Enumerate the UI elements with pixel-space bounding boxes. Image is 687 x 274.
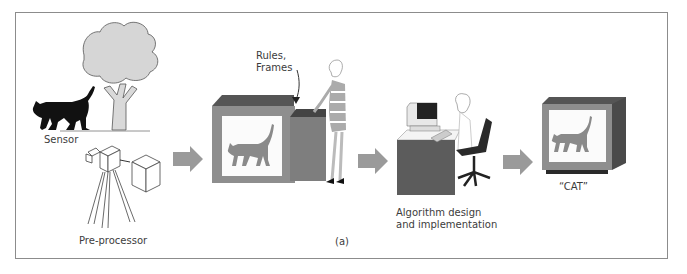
programmer-icon xyxy=(456,94,472,150)
rules-label: Rules, xyxy=(256,50,286,62)
output-label: “CAT” xyxy=(559,181,588,193)
diagram-canvas xyxy=(0,0,687,274)
algorithm-label-line2: and implementation xyxy=(396,219,497,231)
figure-caption: (a) xyxy=(335,236,349,248)
knowledge-box-icon xyxy=(290,109,326,181)
output-monitor-icon xyxy=(542,97,626,174)
sensor-label: Sensor xyxy=(44,134,78,146)
desk-icon xyxy=(397,130,460,195)
arrow-1 xyxy=(173,146,203,172)
algorithm-label-line1: Algorithm design xyxy=(396,207,481,219)
cat-icon xyxy=(33,86,95,130)
camera-icon xyxy=(86,146,135,228)
arrow-2 xyxy=(358,148,388,174)
rules-pointer-arrow xyxy=(296,70,299,100)
monitor-icon xyxy=(212,95,295,183)
processor-box-icon xyxy=(132,155,160,192)
frames-label: Frames xyxy=(256,62,292,74)
preprocessor-label: Pre-processor xyxy=(79,235,147,247)
arrow-3 xyxy=(503,149,533,175)
